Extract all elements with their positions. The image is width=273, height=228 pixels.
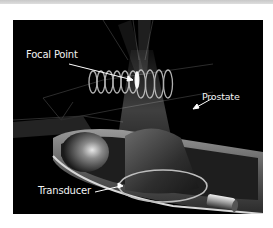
sphere-element: [61, 132, 109, 172]
hifu-illustration: Focal Point Prostate Transducer: [13, 20, 263, 214]
focal-point-spot: [135, 71, 140, 89]
wireframe-lines: [13, 20, 213, 122]
transducer-cone: [125, 128, 199, 193]
focal-point-label: Focal Point: [26, 50, 78, 60]
transducer-label: Transducer: [38, 186, 91, 196]
top-divider-bar: [0, 0, 273, 4]
prostate-label: Prostate: [202, 92, 240, 102]
